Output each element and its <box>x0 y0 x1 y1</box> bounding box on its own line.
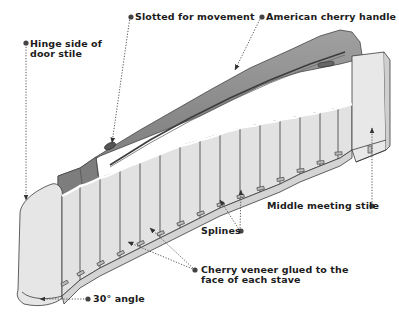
callout-text: Slotted for movement <box>135 12 255 22</box>
callout-text: Splines <box>201 226 241 236</box>
callout-text: American cherry handle <box>266 12 396 22</box>
callout-text: face of each stave <box>201 275 348 285</box>
callout-hinge-side: Hinge side of door stile <box>30 39 102 59</box>
callout-text: door stile <box>30 49 102 59</box>
callout-30-degree-angle: 30° angle <box>93 294 145 304</box>
callout-text: Middle meeting stile <box>267 201 379 211</box>
callout-middle-meeting-stile: Middle meeting stile <box>267 201 379 211</box>
callout-splines: Splines <box>201 226 241 236</box>
callout-slotted-for-movement: Slotted for movement <box>135 12 255 22</box>
callout-text: 30° angle <box>93 294 145 304</box>
callout-american-cherry-handle: American cherry handle <box>266 12 396 22</box>
callout-cherry-veneer: Cherry veneer glued to the face of each … <box>201 265 348 285</box>
